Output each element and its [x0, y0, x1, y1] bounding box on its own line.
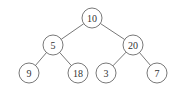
node-label: 9: [27, 68, 32, 79]
node-label: 5: [51, 40, 56, 51]
node-label: 20: [128, 40, 138, 51]
binary-tree-diagram: 1052091837: [0, 0, 178, 92]
tree-node-5: 5: [43, 35, 63, 55]
tree-node-10: 10: [82, 8, 102, 28]
tree-edge-5-9: [36, 53, 47, 66]
tree-nodes: 1052091837: [19, 8, 167, 83]
tree-node-20: 20: [123, 35, 143, 55]
tree-node-3: 3: [96, 63, 116, 83]
tree-edge-20-3: [113, 52, 126, 66]
node-label: 10: [87, 13, 97, 24]
node-label: 7: [155, 68, 160, 79]
tree-edge-20-7: [140, 53, 151, 66]
tree-edge-5-18: [60, 52, 72, 65]
tree-edge-10-5: [61, 24, 84, 40]
tree-node-7: 7: [147, 63, 167, 83]
node-label: 18: [73, 68, 83, 79]
tree-node-18: 18: [68, 63, 88, 83]
tree-svg: 1052091837: [0, 0, 178, 92]
tree-edge-10-20: [100, 23, 124, 39]
node-label: 3: [104, 68, 109, 79]
tree-node-9: 9: [19, 63, 39, 83]
